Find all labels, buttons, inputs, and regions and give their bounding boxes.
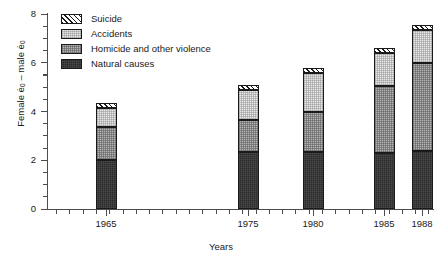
x-tick-minor (69, 210, 70, 214)
x-tick-minor (269, 210, 270, 214)
y-tick-minor (43, 38, 47, 39)
bar-segment-1975-suicide[interactable] (238, 85, 259, 90)
bar-segment-1975-natural[interactable] (238, 152, 259, 209)
legend-label-homicide: Homicide and other violence (91, 44, 211, 54)
x-tick-label-1980: 1980 (283, 218, 343, 229)
bar-segment-1965-accidents[interactable] (96, 108, 117, 128)
legend-label-accidents: Accidents (91, 29, 132, 39)
y-tick-minor (43, 26, 47, 27)
y-tick-minor (43, 50, 47, 51)
y-axis-title-text: Female ė0 – male ė0 (15, 40, 26, 127)
x-tick-minor (402, 210, 403, 214)
x-tick-minor (189, 210, 190, 214)
chart-legend: SuicideAccidentsHomicide and other viole… (61, 12, 211, 72)
legend-swatch-accidents-icon (61, 29, 82, 39)
legend-item-homicide[interactable]: Homicide and other violence (61, 42, 211, 56)
y-tick-minor (43, 123, 47, 124)
x-tick-minor (295, 210, 296, 214)
x-tick-minor (362, 210, 363, 214)
bar-segment-1965-homicide[interactable] (96, 127, 117, 160)
x-tick-minor (202, 210, 203, 214)
x-tick-minor (282, 210, 283, 214)
legend-item-natural[interactable]: Natural causes (61, 57, 211, 71)
y-tick-minor (43, 172, 47, 173)
bar-segment-1980-accidents[interactable] (303, 73, 324, 112)
y-tick-minor (43, 196, 47, 197)
y-tick-minor (43, 184, 47, 185)
bar-segment-1985-suicide[interactable] (374, 48, 395, 53)
x-tick-minor (136, 210, 137, 214)
x-tick-minor (123, 210, 124, 214)
y-tick-minor (43, 135, 47, 136)
bar-segment-1975-homicide[interactable] (238, 120, 259, 152)
bar-segment-1965-natural[interactable] (96, 160, 117, 209)
y-tick-8 (41, 14, 47, 15)
bar-segment-1980-suicide[interactable] (303, 68, 324, 73)
y-axis-title: Female ė0 – male ė0 (15, 19, 26, 149)
legend-swatch-natural-icon (61, 59, 82, 69)
y-axis-line (47, 13, 48, 210)
x-tick-minor (56, 210, 57, 214)
x-tick-label-1975: 1975 (218, 218, 278, 229)
x-tick-minor (229, 210, 230, 214)
bar-segment-1988-accidents[interactable] (412, 30, 433, 63)
x-tick-minor (176, 210, 177, 214)
y-tick-2 (41, 160, 47, 161)
x-tick-minor (149, 210, 150, 214)
y-tick-6 (41, 62, 47, 63)
x-tick-label-1988: 1988 (392, 218, 442, 229)
y-tick-label-0: 0 (6, 204, 36, 214)
bar-segment-1965-suicide[interactable] (96, 103, 117, 108)
legend-swatch-homicide-icon (61, 44, 82, 54)
bar-segment-1985-accidents[interactable] (374, 53, 395, 86)
x-tick-label-1965: 1965 (76, 218, 136, 229)
x-tick-minor (162, 210, 163, 214)
bar-segment-1985-homicide[interactable] (374, 86, 395, 153)
legend-label-suicide: Suicide (91, 14, 122, 24)
bar-segment-1980-homicide[interactable] (303, 112, 324, 152)
x-tick-minor (83, 210, 84, 214)
y-tick-label-8: 8 (6, 9, 36, 19)
chart-figure: 02468 19651975198019851988 Years Female … (0, 0, 442, 269)
y-tick-minor (43, 148, 47, 149)
bar-segment-1985-natural[interactable] (374, 153, 395, 209)
bar-segment-1988-suicide[interactable] (412, 25, 433, 30)
x-tick-minor (335, 210, 336, 214)
legend-item-accidents[interactable]: Accidents (61, 27, 211, 41)
bar-segment-1980-natural[interactable] (303, 152, 324, 209)
y-tick-minor (43, 99, 47, 100)
y-tick-label-2: 2 (6, 155, 36, 165)
y-tick-minor (43, 74, 47, 75)
bar-segment-1988-natural[interactable] (412, 151, 433, 210)
x-axis-title: Years (0, 241, 442, 252)
bar-segment-1975-accidents[interactable] (238, 90, 259, 120)
y-tick-0 (41, 209, 47, 210)
legend-item-suicide[interactable]: Suicide (61, 12, 211, 26)
y-tick-4 (41, 111, 47, 112)
y-tick-minor (43, 87, 47, 88)
x-tick-minor (349, 210, 350, 214)
bar-segment-1988-homicide[interactable] (412, 63, 433, 151)
legend-swatch-suicide-icon (61, 14, 82, 24)
x-tick-minor (216, 210, 217, 214)
legend-label-natural: Natural causes (91, 59, 154, 69)
